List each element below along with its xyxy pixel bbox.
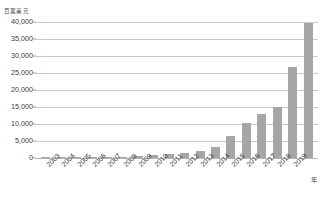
bar — [257, 114, 266, 158]
bar-slot — [254, 22, 269, 158]
x-tick-slot: 2014 — [208, 160, 223, 204]
y-axis-tick-label: 5,000 — [15, 137, 33, 145]
y-axis-tick-labels: 40,00035,00030,00025,00020,00015,00010,0… — [0, 22, 33, 158]
bar — [304, 23, 313, 158]
bar-slot — [100, 22, 115, 158]
x-tick-slot: 2006 — [84, 160, 99, 204]
x-tick-slot: 2010 — [146, 160, 161, 204]
bar-slot — [285, 22, 300, 158]
x-tick-slot: 2008 — [115, 160, 130, 204]
x-tick-slot: 2009 — [131, 160, 146, 204]
bar-slot — [223, 22, 238, 158]
x-tick-slot: 2017 — [254, 160, 269, 204]
x-tick-slot: 2004 — [53, 160, 68, 204]
y-axis-tick-label: 30,000 — [11, 52, 33, 60]
bar-slot — [270, 22, 285, 158]
x-tick-slot: 2003 — [38, 160, 53, 204]
plot-area — [36, 22, 318, 158]
bar — [288, 67, 297, 158]
bar-slot — [53, 22, 68, 158]
x-tick-slot: 2015 — [223, 160, 238, 204]
x-tick-slot: 2019 — [285, 160, 300, 204]
bar-slot — [162, 22, 177, 158]
y-axis-tick-label: 15,000 — [11, 103, 33, 111]
bar-slot — [208, 22, 223, 158]
y-axis-tick-label: 40,000 — [11, 18, 33, 26]
bar-slot — [239, 22, 254, 158]
bar — [273, 107, 282, 158]
y-axis-tick-label: 35,000 — [11, 35, 33, 43]
x-tick-slot: 2007 — [100, 160, 115, 204]
x-tick-slot: 2012 — [177, 160, 192, 204]
y-axis-tick-label: 20,000 — [11, 86, 33, 94]
bar-slot — [146, 22, 161, 158]
x-axis-tick-labels: 2003200420052006200720082009201020112012… — [36, 160, 318, 204]
y-axis-tick-label: 25,000 — [11, 69, 33, 77]
x-tick-slot: 2013 — [192, 160, 207, 204]
bar-slot — [115, 22, 130, 158]
bar-slot — [38, 22, 53, 158]
bar-series — [36, 22, 318, 158]
y-axis-tick-label: 10,000 — [11, 120, 33, 128]
bar-slot — [69, 22, 84, 158]
y-axis-unit-label: 百萬美元 — [4, 7, 29, 15]
x-tick-slot: 2005 — [69, 160, 84, 204]
x-tick-slot: 2018 — [270, 160, 285, 204]
bar-slot — [84, 22, 99, 158]
bar-slot — [131, 22, 146, 158]
x-tick-slot: 2011 — [162, 160, 177, 204]
bar-chart: 百萬美元 40,00035,00030,00025,00020,00015,00… — [0, 0, 323, 206]
bar-slot — [300, 22, 315, 158]
x-axis-unit-label: 年 — [311, 176, 317, 183]
x-tick-slot: 2016 — [239, 160, 254, 204]
bar-slot — [192, 22, 207, 158]
bar-slot — [177, 22, 192, 158]
